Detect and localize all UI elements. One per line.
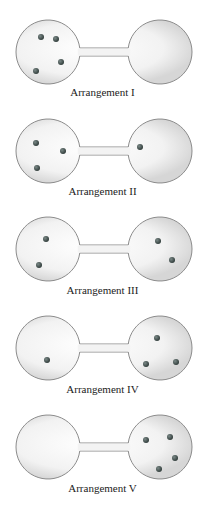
- connecting-tube: [78, 49, 131, 56]
- connecting-tube: [78, 444, 131, 451]
- arrangement-3: Arrangement III: [16, 217, 192, 296]
- gas-particle: [143, 361, 149, 367]
- arrangement-label: Arrangement IV: [66, 383, 138, 395]
- gas-particle: [60, 148, 66, 154]
- connecting-tube: [78, 148, 131, 155]
- gas-particle: [143, 437, 149, 443]
- gas-particle: [34, 165, 40, 171]
- gas-particle: [38, 34, 44, 40]
- gas-particle: [43, 236, 49, 242]
- gas-particle: [169, 257, 175, 263]
- connecting-tube: [78, 345, 131, 352]
- arrangement-label: Arrangement III: [67, 284, 139, 296]
- gas-particle: [173, 359, 179, 365]
- connecting-tube: [78, 246, 131, 253]
- gas-particle: [156, 466, 162, 472]
- gas-particle: [44, 357, 50, 363]
- arrangement-label: Arrangement II: [68, 185, 136, 197]
- gas-particle: [33, 140, 39, 146]
- arrangement-1: Arrangement I: [16, 20, 192, 98]
- gas-particle: [53, 36, 59, 42]
- arrangement-label: Arrangement V: [68, 482, 137, 494]
- gas-particle: [137, 144, 143, 150]
- arrangement-2: Arrangement II: [16, 119, 192, 197]
- arrangement-4: Arrangement IV: [16, 316, 192, 395]
- gas-particle: [36, 262, 42, 268]
- gas-flask-diagram: Arrangement IArrangement IIArrangement I…: [0, 0, 205, 505]
- gas-particle: [33, 68, 39, 74]
- gas-particle: [167, 434, 173, 440]
- arrangement-5: Arrangement V: [16, 415, 192, 494]
- arrangement-label: Arrangement I: [70, 86, 135, 98]
- gas-particle: [172, 455, 178, 461]
- gas-particle: [155, 238, 161, 244]
- gas-particle: [154, 335, 160, 341]
- gas-particle: [58, 59, 64, 65]
